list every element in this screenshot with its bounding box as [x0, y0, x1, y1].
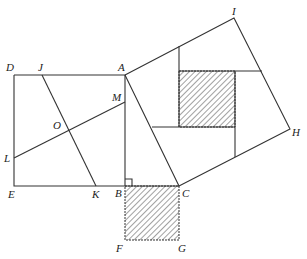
label-b: B — [115, 187, 122, 199]
label-c: C — [182, 187, 190, 199]
label-f: F — [115, 242, 123, 254]
label-h: H — [291, 126, 301, 138]
pythagorean-dissection-diagram: A B C D E F G H I J K L M O — [0, 0, 307, 259]
segment-lm — [14, 102, 125, 158]
label-e: E — [7, 188, 15, 200]
label-o: O — [53, 119, 61, 131]
label-m: M — [111, 91, 122, 103]
label-i: I — [231, 5, 237, 17]
label-a: A — [117, 61, 125, 73]
label-g: G — [178, 242, 186, 254]
label-d: D — [5, 61, 14, 73]
label-j: J — [38, 61, 44, 73]
label-k: K — [91, 188, 100, 200]
hatched-inner-square — [179, 71, 235, 127]
right-angle-marker — [125, 179, 132, 186]
hatched-square-bcgf — [125, 186, 179, 240]
label-l: L — [3, 152, 10, 164]
